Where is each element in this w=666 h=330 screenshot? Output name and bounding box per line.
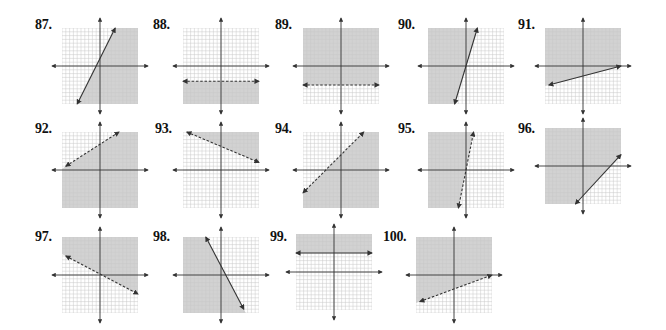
inequality-graph [50, 16, 150, 116]
inequality-graph [50, 120, 150, 220]
inequality-graph [533, 116, 633, 216]
inequality-graph [291, 120, 391, 220]
problem-number: 98. [153, 229, 170, 245]
inequality-graph [171, 16, 271, 116]
problem-number: 95. [398, 121, 415, 137]
problem-number: 100. [383, 229, 406, 245]
inequality-graph [291, 16, 391, 116]
problem-number: 93. [155, 121, 172, 137]
problem-number: 90. [398, 17, 415, 33]
problem-number: 89. [275, 17, 292, 33]
inequality-graph [404, 225, 504, 325]
inequality-graph [533, 16, 633, 116]
inequality-graph [416, 16, 516, 116]
inequality-graph [171, 120, 271, 220]
inequality-graph [171, 225, 271, 325]
problem-number: 94. [275, 121, 292, 137]
inequality-graph [416, 120, 516, 220]
inequality-graph [284, 222, 384, 322]
inequality-graph [50, 225, 150, 325]
problem-number: 88. [153, 17, 170, 33]
